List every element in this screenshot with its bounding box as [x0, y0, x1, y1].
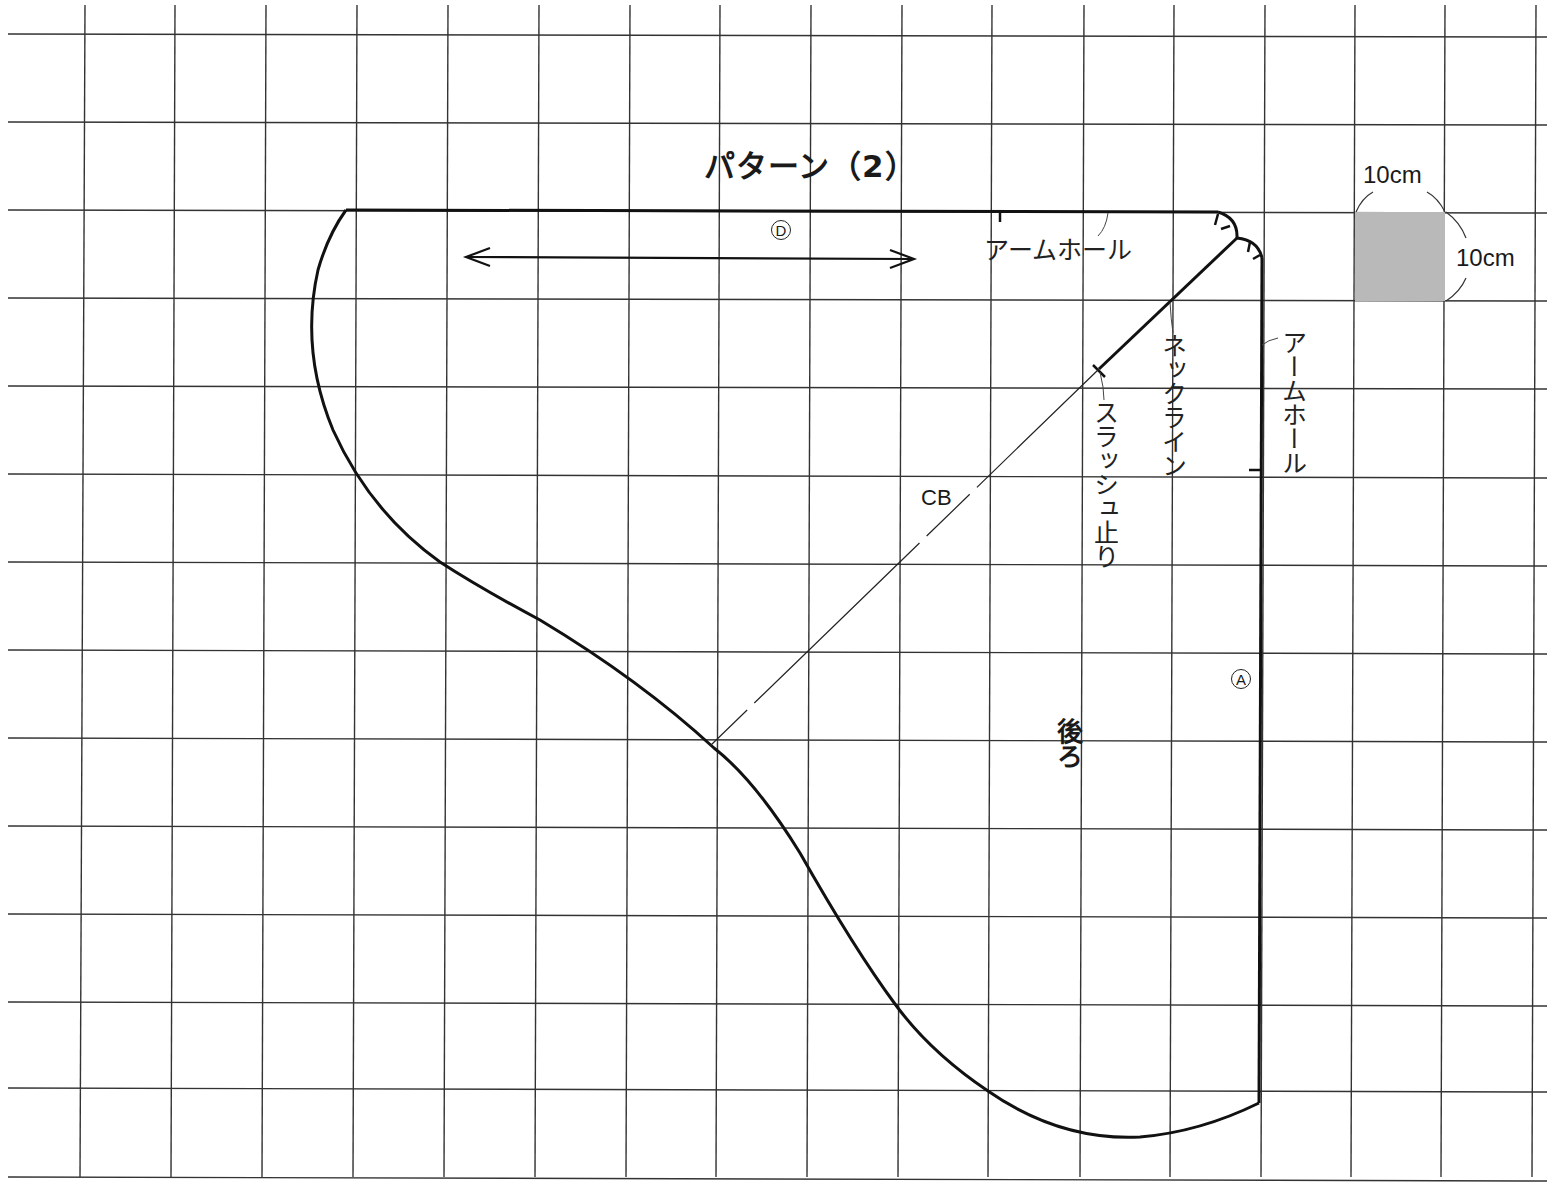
scale-bracket-top-right [1427, 192, 1445, 212]
scale-swatch [1355, 212, 1445, 301]
mark-d-badge: D [771, 220, 791, 240]
page-title: パターン（2） [704, 151, 917, 182]
grainline-arrow-icon [466, 248, 914, 268]
scale-width-label: 10cm [1363, 163, 1422, 187]
armhole-right-label: アームホール [1280, 330, 1305, 474]
center-back-line [710, 369, 1099, 746]
pattern-sheet: パターン（2） 10cm 10cm D アームホール ネックライン アームホール… [0, 0, 1547, 1185]
scale-bracket-right-bottom [1446, 278, 1466, 301]
scale-bracket-top [1356, 192, 1373, 212]
slash-stop-label: スラッシュ止り [1092, 400, 1117, 568]
armhole-top-label: アームホール [984, 238, 1132, 263]
piece-name-label: 後ろ [1054, 718, 1080, 768]
scale-height-label: 10cm [1456, 246, 1515, 270]
scale-bracket-right-top [1446, 212, 1466, 238]
mark-a-badge: A [1231, 669, 1251, 689]
neckline-label: ネックライン [1160, 333, 1185, 477]
center-back-label: CB [921, 487, 952, 509]
